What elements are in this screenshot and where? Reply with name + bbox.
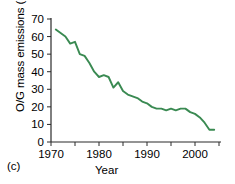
x-tick-label: 2000 [182, 148, 208, 160]
y-tick-label: 10 [31, 118, 44, 130]
figure-panel-c: O/G mass emissions (103 mt) Year (c) 010… [0, 0, 235, 184]
y-tick-labels: 010203040506070 [31, 13, 44, 148]
axis-ticks [47, 19, 219, 146]
y-tick-label: 60 [31, 31, 44, 43]
y-tick-label: 30 [31, 83, 44, 95]
line-chart: 010203040506070 1970198019902000 [0, 0, 235, 184]
y-tick-label: 20 [31, 101, 44, 113]
data-series-line [56, 30, 214, 130]
x-tick-labels: 1970198019902000 [38, 148, 208, 160]
y-tick-label: 40 [31, 66, 44, 78]
y-tick-label: 0 [38, 136, 44, 148]
y-tick-label: 70 [31, 13, 44, 25]
x-tick-label: 1970 [38, 148, 64, 160]
y-tick-label: 50 [31, 48, 44, 60]
x-tick-label: 1990 [134, 148, 160, 160]
x-tick-label: 1980 [86, 148, 112, 160]
